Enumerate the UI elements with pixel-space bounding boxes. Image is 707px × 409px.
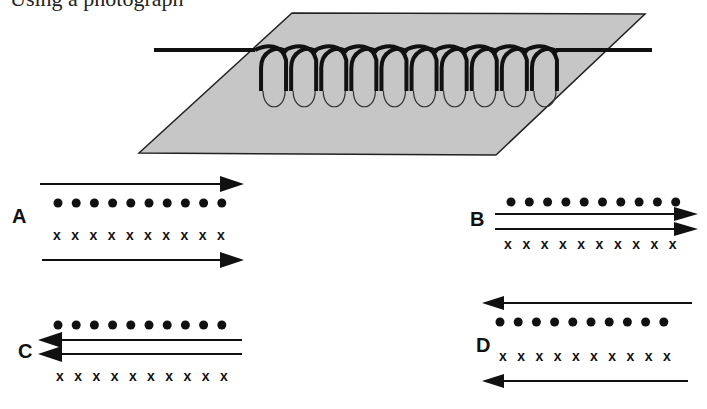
svg-text:x: x — [590, 348, 598, 364]
svg-text:x: x — [56, 368, 64, 384]
svg-text:x: x — [669, 236, 677, 252]
svg-text:x: x — [614, 236, 622, 252]
arrow-left-icon — [482, 296, 504, 310]
option-a-label: A — [12, 205, 26, 227]
option-a[interactable]: A xxxxxxxxxx — [12, 176, 244, 268]
arrow-left-icon — [38, 346, 62, 362]
svg-text:x: x — [108, 227, 116, 243]
svg-text:x: x — [129, 368, 137, 384]
dots-row — [54, 321, 227, 330]
dots-row — [54, 199, 227, 208]
arrow-right-icon — [220, 176, 244, 192]
svg-text:x: x — [220, 368, 228, 384]
svg-text:x: x — [536, 348, 544, 364]
svg-text:x: x — [93, 368, 101, 384]
arrow-left-icon — [482, 374, 504, 388]
svg-text:x: x — [596, 236, 604, 252]
crosses-row: xxxxxxxxxx — [504, 236, 677, 252]
option-c[interactable]: C xxxxxxxxxx — [18, 321, 242, 385]
option-c-label: C — [18, 340, 32, 362]
option-b[interactable]: B xxxxxxxxxx — [470, 198, 698, 253]
svg-text:x: x — [517, 348, 525, 364]
svg-text:x: x — [627, 348, 635, 364]
svg-text:x: x — [111, 368, 119, 384]
svg-text:x: x — [504, 236, 512, 252]
svg-text:x: x — [53, 227, 61, 243]
svg-text:x: x — [559, 236, 567, 252]
crosses-row: xxxxxxxxxx — [499, 348, 671, 364]
svg-text:x: x — [90, 227, 98, 243]
svg-text:x: x — [541, 236, 549, 252]
svg-text:x: x — [71, 227, 79, 243]
svg-text:x: x — [202, 368, 210, 384]
svg-text:x: x — [74, 368, 82, 384]
arrow-right-icon — [674, 207, 698, 221]
svg-text:x: x — [663, 348, 671, 364]
arrow-right-icon — [220, 252, 244, 268]
arrow-right-icon — [674, 222, 698, 236]
svg-text:x: x — [147, 368, 155, 384]
svg-text:x: x — [608, 348, 616, 364]
solenoid-diagram: A xxxxxxxxxx B xxxxxxxxxx C xxxxxxxxxx D… — [0, 0, 707, 409]
option-d-label: D — [476, 334, 490, 356]
svg-text:x: x — [499, 348, 507, 364]
svg-text:x: x — [554, 348, 562, 364]
arrow-left-icon — [38, 332, 62, 348]
svg-text:x: x — [572, 348, 580, 364]
dots-row — [507, 198, 681, 207]
svg-text:x: x — [577, 236, 585, 252]
svg-text:x: x — [199, 227, 207, 243]
svg-text:x: x — [522, 236, 530, 252]
svg-text:x: x — [181, 227, 189, 243]
svg-text:x: x — [645, 348, 653, 364]
option-b-label: B — [470, 208, 484, 230]
dots-row — [496, 318, 669, 327]
crosses-row: xxxxxxxxxx — [53, 227, 225, 243]
svg-text:x: x — [165, 368, 173, 384]
svg-text:x: x — [162, 227, 170, 243]
svg-text:x: x — [217, 227, 225, 243]
svg-text:x: x — [632, 236, 640, 252]
option-d[interactable]: D xxxxxxxxxx — [476, 296, 692, 388]
svg-text:x: x — [144, 227, 152, 243]
plane — [139, 13, 645, 155]
svg-text:x: x — [651, 236, 659, 252]
crosses-row: xxxxxxxxxx — [56, 368, 228, 384]
svg-text:x: x — [126, 227, 134, 243]
svg-text:x: x — [184, 368, 192, 384]
